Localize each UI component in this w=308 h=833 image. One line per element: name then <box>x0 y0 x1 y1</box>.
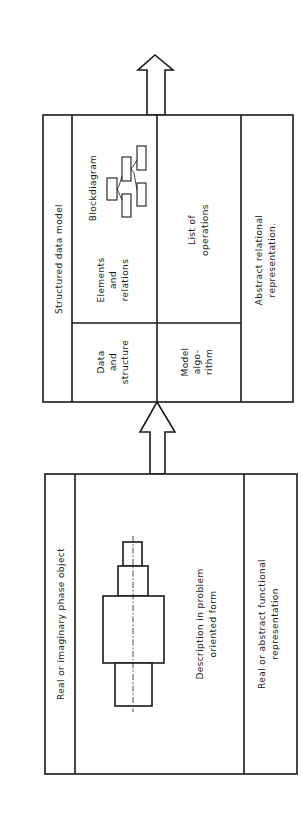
upper-box-title: Structured data model <box>54 204 64 314</box>
svg-text:structure: structure <box>120 340 130 385</box>
svg-text:and: and <box>108 353 118 371</box>
cell-model-algorithm: Model algo- rithm <box>180 347 214 376</box>
middle-arrow-icon <box>140 402 175 474</box>
svg-text:Abstract relational: Abstract relational <box>254 215 264 306</box>
svg-text:and: and <box>108 271 118 289</box>
lower-box-title: Real or imaginary phase object <box>56 548 66 700</box>
svg-text:Elements: Elements <box>96 257 106 302</box>
svg-text:representation.: representation. <box>267 223 277 298</box>
svg-text:Description in problem: Description in problem <box>195 568 205 679</box>
svg-text:Model: Model <box>180 347 190 376</box>
svg-text:oriented form: oriented form <box>208 591 218 658</box>
svg-text:Data: Data <box>96 350 106 373</box>
svg-text:List of: List of <box>187 215 197 245</box>
svg-text:operations: operations <box>200 204 210 256</box>
phase-object-box: Real or imaginary phase object Descripti… <box>45 474 297 774</box>
diagram-canvas: Structured data model Data and structure… <box>0 0 308 833</box>
svg-text:algo-: algo- <box>192 350 202 375</box>
top-arrow-icon <box>138 55 173 115</box>
svg-text:Real or abstract functional: Real or abstract functional <box>257 559 267 689</box>
svg-text:representation: representation <box>270 588 280 660</box>
svg-text:rithm: rithm <box>204 349 214 375</box>
structured-data-model-box: Structured data model Data and structure… <box>43 115 293 402</box>
blockdiagram-label: Blockdiagram <box>88 155 98 222</box>
svg-text:relations: relations <box>120 259 130 302</box>
